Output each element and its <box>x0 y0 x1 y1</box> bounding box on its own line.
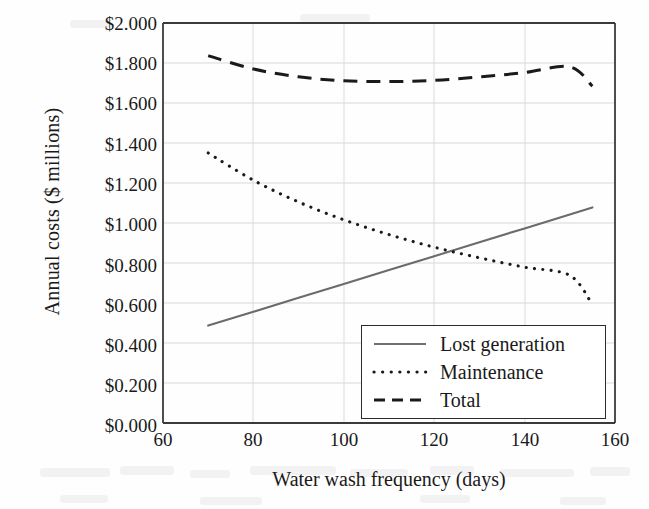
series-total <box>208 56 592 87</box>
chart-figure: Annual costs ($ millions) $2.000 $1.800 … <box>0 0 649 509</box>
dashed-line-swatch <box>372 392 428 408</box>
plot-area <box>0 0 649 509</box>
series-maintenance-line <box>208 153 592 305</box>
chart-legend: Lost generation Maintenance Total <box>361 325 606 419</box>
legend-item-total: Total <box>372 386 481 414</box>
legend-label: Lost generation <box>440 333 565 356</box>
solid-line-swatch <box>372 336 428 352</box>
legend-item-maintenance: Maintenance <box>372 358 543 386</box>
legend-item-lost-generation: Lost generation <box>372 330 565 358</box>
legend-label: Total <box>440 389 481 412</box>
dotted-line-swatch <box>372 364 428 380</box>
series-lost-generation <box>208 207 592 325</box>
legend-label: Maintenance <box>440 361 543 384</box>
